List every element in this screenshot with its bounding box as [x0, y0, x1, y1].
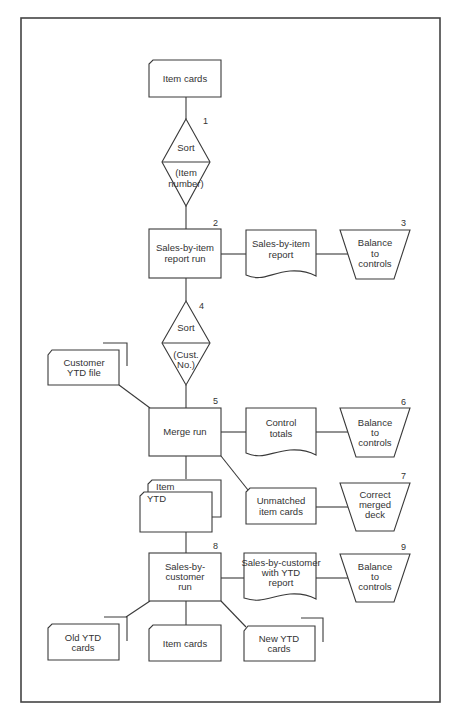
svg-text:cards: cards [71, 642, 94, 653]
svg-text:controls: controls [358, 258, 392, 269]
svg-text:controls: controls [358, 437, 392, 448]
balance-to-controls-6: 6 Balance to controls [340, 397, 410, 457]
flowchart: Item cards 1 Sort (Item number) 2 Sales-… [0, 0, 453, 719]
svg-text:7: 7 [401, 471, 406, 481]
svg-text:Balance: Balance [358, 237, 392, 248]
customer-ytd-file-node: Customer YTD file [48, 343, 127, 385]
svg-text:Sales-by-item: Sales-by-item [156, 242, 214, 253]
svg-text:Item cards: Item cards [163, 638, 208, 649]
svg-text:9: 9 [401, 542, 406, 552]
report-run-node: 2 Sales-by-item report run [149, 218, 221, 278]
svg-text:3: 3 [401, 218, 406, 228]
svg-text:report: report [269, 249, 294, 260]
item-ytd-cards-node: Item YTD [140, 480, 221, 532]
svg-text:run: run [178, 581, 192, 592]
svg-text:6: 6 [401, 397, 406, 407]
svg-text:Sales-by-item: Sales-by-item [252, 238, 310, 249]
svg-text:4: 4 [199, 301, 204, 311]
svg-text:report: report [269, 577, 294, 588]
svg-text:number): number) [168, 178, 203, 189]
merge-run-node: 5 Merge run [149, 396, 221, 456]
svg-text:deck: deck [365, 509, 385, 520]
svg-text:controls: controls [358, 581, 392, 592]
svg-text:cards: cards [267, 643, 290, 654]
sort-1-node: 1 Sort (Item number) [162, 116, 210, 206]
balance-to-controls-9: 9 Balance to controls [340, 542, 410, 602]
svg-text:1: 1 [203, 116, 208, 126]
svg-text:YTD: YTD [147, 493, 166, 504]
svg-text:5: 5 [213, 396, 218, 406]
connectors [119, 97, 348, 627]
sales-by-customer-report-doc: Sales-by-customer with YTD report [241, 553, 320, 600]
svg-text:8: 8 [213, 541, 218, 551]
svg-text:Unmatched: Unmatched [257, 495, 306, 506]
svg-text:Control: Control [266, 417, 297, 428]
svg-text:Sort: Sort [177, 322, 195, 333]
svg-text:Merge run: Merge run [163, 426, 206, 437]
svg-text:report run: report run [164, 253, 205, 264]
svg-text:No.): No.) [177, 359, 195, 370]
item-cards-top-node: Item cards [149, 60, 221, 97]
sales-by-customer-run-node: 8 Sales-by- customer run [149, 541, 221, 601]
svg-text:Item: Item [156, 481, 175, 492]
svg-text:(Item: (Item [175, 167, 197, 178]
svg-text:2: 2 [213, 218, 218, 228]
svg-text:Item cards: Item cards [163, 73, 208, 84]
correct-merged-deck-7: 7 Correct merged deck [340, 471, 410, 531]
control-totals-doc: Control totals [246, 408, 316, 456]
sales-by-item-report-doc: Sales-by-item report [246, 230, 316, 278]
old-ytd-cards-node: Old YTD cards [48, 617, 127, 660]
svg-text:YTD file: YTD file [67, 367, 101, 378]
item-cards-bottom-node: Item cards [149, 625, 221, 661]
unmatched-item-cards-node: Unmatched item cards [246, 488, 316, 524]
svg-text:Sort: Sort [177, 142, 195, 153]
svg-text:item cards: item cards [259, 506, 303, 517]
balance-to-controls-3: 3 Balance to controls [340, 218, 410, 279]
new-ytd-cards-node: New YTD cards [244, 618, 323, 661]
sort-4-node: 4 Sort (Cust. No.) [162, 301, 210, 385]
svg-text:totals: totals [270, 428, 293, 439]
